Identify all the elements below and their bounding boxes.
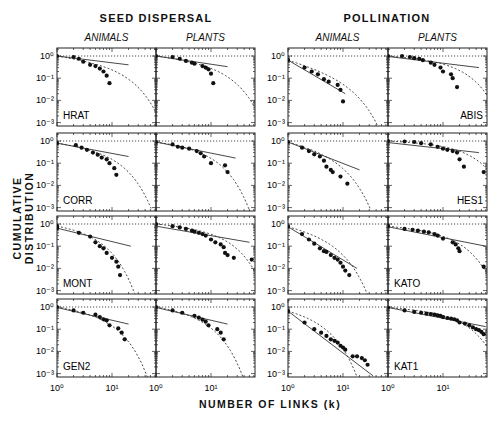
panel-kato-plants: KATO [386, 216, 487, 294]
data-point [225, 170, 229, 174]
y-tick-label: 10⁻¹ [36, 158, 54, 168]
data-point [310, 69, 314, 73]
data-point [77, 231, 81, 235]
data-point [402, 308, 406, 312]
data-point [206, 67, 210, 71]
y-tick-label: 10⁻³ [36, 203, 54, 213]
data-point [112, 166, 116, 170]
truncated-fit [288, 227, 367, 294]
data-point [176, 145, 180, 149]
x-tick-label: 10⁰ [281, 383, 295, 393]
data-point [402, 139, 406, 143]
y-tick-label: 10⁻¹ [267, 324, 285, 334]
data-point [419, 311, 423, 315]
y-tick-label: 10⁻² [36, 346, 54, 356]
truncated-fit [288, 142, 371, 210]
data-point [184, 227, 188, 231]
y-tick-label: 10⁻³ [36, 118, 54, 128]
data-point [114, 173, 118, 177]
data-point [98, 315, 102, 319]
data-point [93, 240, 97, 244]
data-point [329, 253, 333, 257]
data-point [211, 81, 215, 85]
data-point [412, 310, 416, 314]
data-point [215, 327, 219, 331]
data-point [457, 157, 461, 161]
y-tick-label: 10⁻² [36, 95, 54, 105]
data-point [105, 318, 109, 322]
data-point [341, 99, 345, 103]
y-tick-label: 10⁻¹ [36, 73, 54, 83]
data-point [331, 170, 335, 174]
data-point [400, 54, 404, 58]
data-point [225, 253, 229, 257]
truncated-fit [288, 311, 357, 377]
x-tick-label: 10⁰ [50, 383, 64, 393]
y-tick-label: 10⁻¹ [267, 73, 285, 83]
y-tick-label: 10⁻² [267, 346, 285, 356]
data-point [312, 242, 316, 246]
data-point [120, 331, 124, 335]
data-point [170, 55, 174, 59]
data-point [482, 170, 486, 174]
network-label: CORR [63, 195, 92, 206]
data-point [424, 312, 428, 316]
panel-kat1-animals: 10⁰10⁻¹10⁻²10⁻³10⁰10¹ [267, 299, 388, 393]
y-tick-label: 10⁻³ [267, 118, 285, 128]
data-point [209, 161, 213, 165]
chart-grid: 10⁰10⁻¹10⁻²10⁻³HRAT10⁰10⁻¹10⁻²10⁻³ABIS10… [0, 0, 498, 425]
data-point [351, 354, 355, 358]
data-point [355, 354, 359, 358]
y-tick-label: 10⁰ [40, 302, 54, 312]
data-point [307, 237, 311, 241]
data-point [222, 337, 226, 341]
y-tick-label: 10⁻³ [36, 286, 54, 296]
y-tick-label: 10⁻² [267, 95, 285, 105]
data-point [318, 154, 322, 158]
y-tick-label: 10⁰ [40, 219, 54, 229]
data-point [170, 308, 174, 312]
data-point [55, 141, 59, 145]
data-point [204, 234, 208, 238]
data-point [222, 245, 226, 249]
data-point [463, 321, 467, 325]
data-point [302, 320, 306, 324]
panel-corr-animals: 10⁰10⁻¹10⁻²10⁻³CORR [36, 133, 156, 213]
data-point [286, 140, 290, 144]
data-point [421, 58, 425, 62]
data-point [318, 246, 322, 250]
power-law-fit [388, 143, 479, 153]
data-point [116, 265, 120, 269]
data-point [336, 257, 340, 261]
data-point [93, 313, 97, 317]
y-tick-label: 10⁰ [40, 51, 54, 61]
data-point [219, 331, 223, 335]
y-tick-label: 10⁻³ [267, 203, 285, 213]
data-point [417, 57, 421, 61]
data-point [436, 145, 440, 149]
truncated-fit [388, 56, 487, 95]
data-point [114, 260, 118, 264]
data-point [209, 237, 213, 241]
data-point [123, 337, 127, 341]
data-point [327, 80, 331, 84]
data-point [187, 147, 191, 151]
data-point [71, 308, 75, 312]
y-tick-label: 10⁻² [36, 180, 54, 190]
data-point [402, 227, 406, 231]
data-point [178, 225, 182, 229]
data-point [55, 54, 59, 58]
data-point [209, 72, 213, 76]
data-point [445, 148, 449, 152]
y-tick-label: 10⁻³ [267, 369, 285, 379]
data-point [336, 340, 340, 344]
data-point [286, 225, 290, 229]
data-point [324, 165, 328, 169]
data-point [206, 323, 210, 327]
x-tick-label: 10¹ [105, 383, 118, 393]
panel-corr-plants [154, 133, 255, 212]
data-point [107, 161, 111, 165]
data-point [338, 174, 342, 178]
data-point [55, 226, 59, 230]
data-point [462, 165, 466, 169]
